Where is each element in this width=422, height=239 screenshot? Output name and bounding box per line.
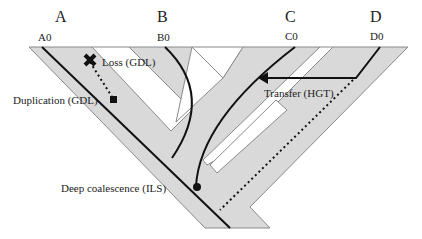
gene-label-c0: C0 [285,30,298,42]
gene-label-b0: B0 [157,31,170,43]
tree-diagram: A B C D A0 B0 C0 D0 Loss (GDL) Duplicati… [0,0,422,239]
deep-coalescence-marker-icon [193,183,201,191]
species-label-a: A [55,8,67,25]
gene-label-d0: D0 [370,30,384,42]
duplication-label: Duplication (GDL) [13,94,98,107]
deep-coalescence-label: Deep coalescence (ILS) [61,182,166,195]
duplication-marker-icon [110,96,117,103]
species-label-d: D [370,8,382,25]
gene-label-a0: A0 [38,31,52,43]
transfer-label: Transfer (HGT) [264,87,334,100]
diagram: A B C D A0 B0 C0 D0 Loss (GDL) Duplicati… [0,0,422,239]
species-label-c: C [285,8,296,25]
species-label-b: B [157,8,168,25]
loss-label: Loss (GDL) [102,56,156,69]
